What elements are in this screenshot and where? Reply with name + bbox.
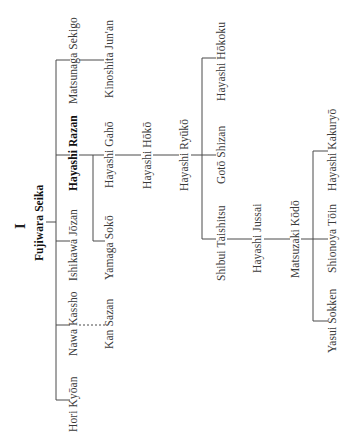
node-yasui-sokken: Yasui Sokken — [327, 289, 339, 353]
node-matsunaga-sekigo: Matsunaga Sekigo — [68, 17, 80, 104]
connector-lines — [0, 0, 362, 435]
node-hayashi-razan: Hayashi Razan — [68, 115, 80, 191]
node-hayashi-gaho: Hayashi Gahō — [104, 121, 116, 188]
node-hayashi-ryuko: Hayashi Ryūkō — [179, 119, 191, 191]
node-nawa-kassho: Nawa Kassho — [68, 291, 80, 356]
node-kan-sazan: Kan Sazan — [104, 299, 116, 349]
lineage-diagram: I Fujiwara Seika Matsunaga Sekigo Hayash… — [0, 0, 362, 435]
node-goto-shizan: Gotō Shizan — [216, 126, 228, 184]
node-hayashi-hoko: Hayashi Hōkō — [142, 122, 154, 189]
node-matsuzaki-kodo: Matsuzaki Kōdō — [290, 200, 302, 278]
plate-number: I — [13, 223, 28, 229]
node-shionoya-toin: Shionoya Tōin — [327, 204, 339, 273]
node-shibui-taishitsu: Shibui Taishitsu — [216, 205, 228, 281]
node-hori-kyoan: Hori Kyōan — [68, 376, 80, 432]
node-hayashi-hokoku: Hayashi Hōkoku — [216, 22, 228, 101]
node-kinoshita-junan: Kinoshita Jun'an — [104, 20, 116, 98]
node-hayashi-kakuryo: Hayashi Kakuryō — [327, 109, 339, 191]
node-hayashi-jussai: Hayashi Jussai — [252, 204, 264, 273]
node-yamaga-soko: Yamaga Sokō — [104, 215, 116, 280]
node-ishikawa-jozan: Ishikawa Jōzan — [68, 209, 80, 281]
node-fujiwara-seika: Fujiwara Seika — [34, 185, 46, 261]
